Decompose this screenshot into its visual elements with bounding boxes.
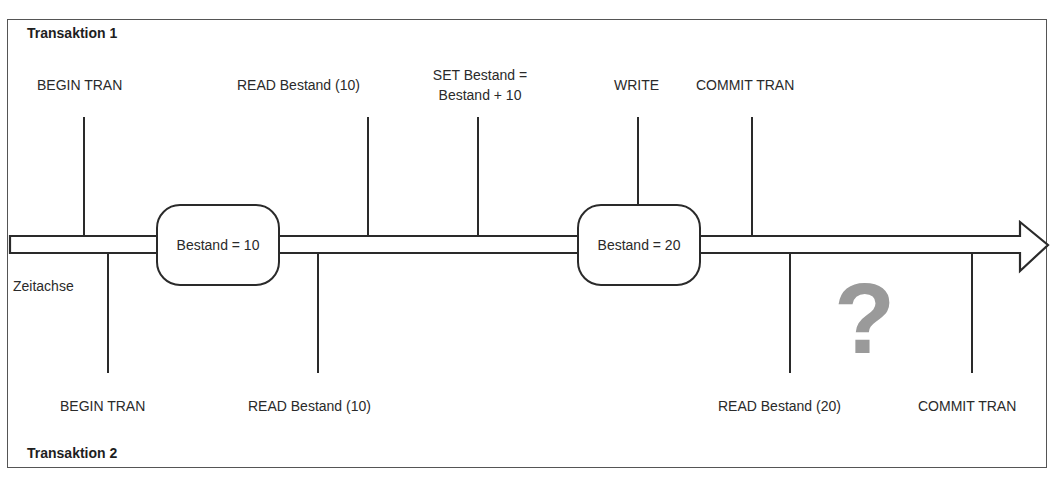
t1-commit-label: COMMIT TRAN <box>696 75 794 95</box>
t1-write-tick <box>637 117 639 205</box>
state-box-bestand-20: Bestand = 20 <box>577 204 701 286</box>
t1-set-tick <box>477 117 479 237</box>
t2-read2-tick <box>789 252 791 373</box>
t1-write-label: WRITE <box>614 75 659 95</box>
state-label: Bestand = 10 <box>177 237 260 253</box>
t2-read-tick <box>317 252 319 373</box>
t1-read-tick <box>367 117 369 237</box>
state-box-bestand-10: Bestand = 10 <box>156 204 280 286</box>
t1-commit-tick <box>751 117 753 237</box>
t1-set-label-line1: SET Bestand = <box>425 65 535 85</box>
t1-set-label-line2: Bestand + 10 <box>425 85 535 105</box>
time-axis-label: Zeitachse <box>13 276 74 296</box>
t1-begin-tick <box>83 117 85 237</box>
t2-commit-tick <box>971 252 973 373</box>
state-label: Bestand = 20 <box>598 237 681 253</box>
t2-read2-label: READ Bestand (20) <box>718 396 841 416</box>
t2-commit-label: COMMIT TRAN <box>918 396 1016 416</box>
question-mark-icon: ? <box>834 268 895 368</box>
t2-read-label: READ Bestand (10) <box>248 396 371 416</box>
t1-begin-label: BEGIN TRAN <box>37 75 122 95</box>
t1-read-label: READ Bestand (10) <box>237 75 360 95</box>
t2-begin-label: BEGIN TRAN <box>60 396 145 416</box>
t1-set-label: SET Bestand = Bestand + 10 <box>425 65 535 105</box>
t2-begin-tick <box>107 252 109 373</box>
